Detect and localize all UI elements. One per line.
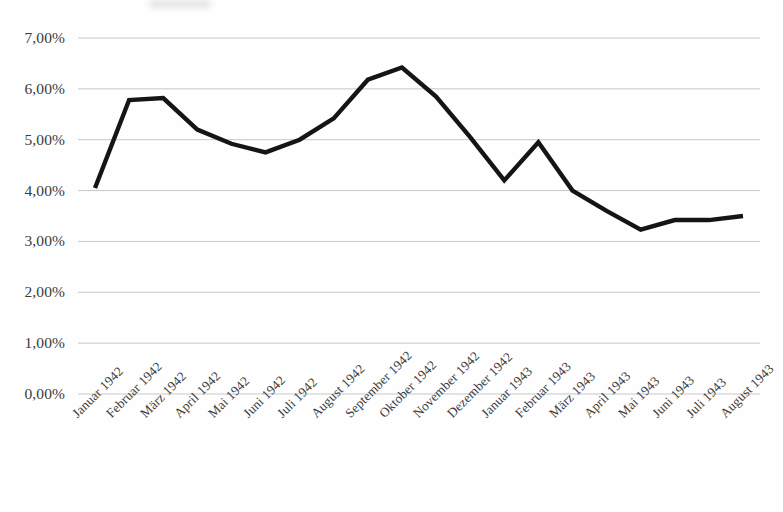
chart-container: 0,00%1,00%2,00%3,00%4,00%5,00%6,00%7,00%… [0, 0, 783, 512]
y-axis-tick-label: 7,00% [0, 29, 65, 47]
y-axis-tick-label: 3,00% [0, 232, 65, 250]
data-series-line [95, 68, 743, 230]
y-axis-tick-label: 5,00% [0, 131, 65, 149]
line-chart-svg [0, 0, 783, 512]
data-series-polyline [95, 68, 743, 230]
y-axis-tick-label: 2,00% [0, 283, 65, 301]
plot-area: 0,00%1,00%2,00%3,00%4,00%5,00%6,00%7,00%… [0, 0, 783, 512]
y-axis-tick-label: 6,00% [0, 80, 65, 98]
gridlines-group [78, 38, 760, 394]
y-axis-tick-label: 0,00% [0, 385, 65, 403]
y-axis-tick-label: 1,00% [0, 334, 65, 352]
y-axis-tick-label: 4,00% [0, 182, 65, 200]
